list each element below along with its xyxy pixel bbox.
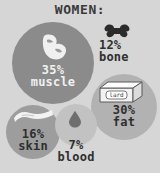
fat-name: fat (91, 116, 157, 128)
body-composition-infographic: WOMEN: 35% muscle 12% bone lard 30% (0, 0, 160, 173)
bone-label: 12% bone (99, 39, 149, 63)
lard-box-label: lard (109, 91, 124, 98)
lard-box-icon: lard (99, 80, 144, 104)
blood-label: 7% blood (51, 139, 101, 163)
bone-name: bone (99, 51, 149, 63)
blood-drop-icon (68, 110, 82, 128)
muscle-label: 35% muscle (12, 64, 94, 88)
page-title: WOMEN: (0, 2, 160, 17)
flexed-biceps-icon (38, 31, 70, 63)
fat-label: 30% fat (91, 104, 157, 128)
skin-strip-icon (12, 108, 54, 124)
bone-icon (99, 24, 135, 39)
muscle-name: muscle (12, 76, 94, 88)
blood-name: blood (51, 151, 101, 163)
